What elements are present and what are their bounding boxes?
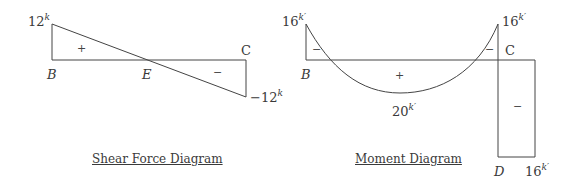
moment-parabola — [306, 24, 498, 93]
moment-column-unit: k′ — [542, 162, 550, 172]
moment-mid-unit: k′ — [409, 102, 417, 112]
moment-right-unit: k′ — [519, 12, 527, 22]
shear-diagram-caption: Shear Force Diagram — [92, 152, 223, 166]
moment-diagram-caption: Moment Diagram — [355, 152, 462, 166]
moment-point-d: D — [494, 165, 504, 178]
shear-point-b: B — [47, 68, 57, 81]
shear-min-unit: k — [277, 88, 282, 98]
moment-left-value: 16 — [282, 14, 299, 29]
moment-column-negative-sign: − — [513, 101, 522, 112]
shear-max-label: 12k — [28, 14, 50, 28]
moment-column-label: 16k′ — [525, 164, 549, 178]
shear-max-value: 12 — [28, 14, 45, 29]
moment-left-unit: k′ — [299, 12, 307, 22]
moment-mid-label: 20k′ — [392, 104, 416, 118]
moment-positive-sign: + — [395, 70, 404, 81]
shear-negative-sign: − — [213, 67, 222, 78]
moment-point-c: C — [505, 44, 515, 57]
shear-point-c: C — [241, 44, 251, 57]
shear-point-e: E — [142, 68, 152, 81]
moment-left-label: 16k′ — [282, 14, 306, 28]
shear-positive-sign: + — [77, 43, 86, 54]
shear-min-value: −12 — [250, 90, 277, 105]
moment-left-negative-sign: − — [312, 44, 321, 55]
moment-right-label: 16k′ — [502, 14, 526, 28]
shear-min-label: −12k — [250, 90, 283, 104]
moment-diagram-lines — [306, 24, 535, 157]
shear-diagram-lines — [52, 24, 246, 97]
shear-max-unit: k — [45, 12, 50, 22]
moment-point-b: B — [301, 68, 311, 81]
moment-right-value: 16 — [502, 14, 519, 29]
moment-mid-value: 20 — [392, 104, 409, 119]
moment-column-value: 16 — [525, 164, 542, 179]
moment-right-negative-sign: − — [485, 44, 494, 55]
